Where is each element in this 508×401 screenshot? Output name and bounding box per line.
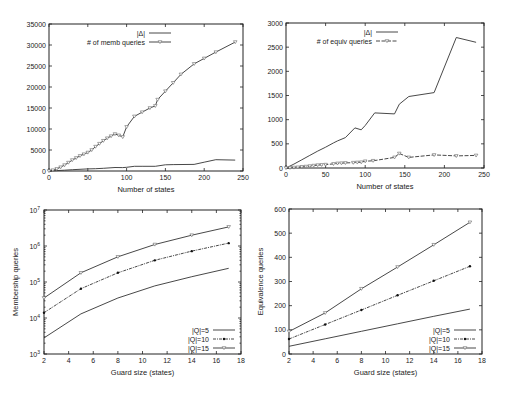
x-tick-label: 4 (67, 357, 71, 364)
dot-marker-icon (43, 312, 45, 314)
triangle-marker-icon (42, 297, 46, 300)
y-axis-label: Membership queries (11, 248, 20, 316)
dot-marker-icon (117, 272, 119, 274)
x-tick-label: 12 (163, 357, 171, 364)
x-tick-label: 4 (311, 357, 315, 364)
y-tick-label: 1500 (267, 92, 283, 99)
x-tick-label: 10 (382, 357, 390, 364)
plot-frame (289, 209, 482, 354)
dot-marker-icon (464, 338, 466, 340)
x-axis-label: Guard size (states) (354, 368, 418, 377)
triangle-marker-icon (125, 126, 129, 129)
x-tick-label: 14 (430, 357, 438, 364)
x-tick-label: 0 (47, 174, 51, 181)
dot-marker-icon (80, 288, 82, 290)
dot-marker-icon (433, 280, 435, 282)
legend-label: |Δ| (137, 30, 145, 38)
legend-label: |Q|=5 (192, 327, 209, 335)
series-1 (47, 41, 237, 173)
series-line (49, 160, 235, 171)
triangle-marker-icon (287, 330, 291, 333)
legend-label: |Q|=10 (429, 336, 450, 344)
series-line (44, 243, 229, 313)
dot-marker-icon (396, 294, 398, 296)
y-tick-label: 2500 (267, 44, 283, 51)
x-tick-label: 100 (121, 174, 133, 181)
y-tick-label: 35000 (27, 21, 47, 28)
x-tick-label: 0 (284, 171, 288, 178)
y-tick-label: 2000 (267, 68, 283, 75)
dot-marker-icon (360, 309, 362, 311)
x-tick-label: 8 (359, 357, 363, 364)
y-tick-label: 20000 (27, 84, 47, 91)
x-tick-label: 10 (139, 357, 147, 364)
x-tick-label: 14 (188, 357, 196, 364)
x-tick-label: 18 (237, 357, 245, 364)
legend-label: |Q|=15 (429, 345, 450, 353)
x-tick-label: 250 (237, 174, 249, 181)
triangle-marker-icon (474, 154, 478, 157)
x-tick-label: 200 (198, 174, 210, 181)
series-line (289, 222, 470, 331)
y-tick-label: 0 (279, 165, 283, 172)
series-0 (49, 160, 235, 171)
x-tick-label: 16 (454, 357, 462, 364)
y-tick-label: 10000 (27, 126, 47, 133)
y-tick-label: 103 (29, 349, 40, 358)
triangle-marker-icon (121, 136, 125, 139)
y-tick-label: 105 (29, 277, 40, 286)
x-tick-label: 250 (478, 171, 490, 178)
x-tick-label: 16 (212, 357, 220, 364)
legend-label: |Q|=5 (433, 327, 450, 335)
x-tick-label: 6 (335, 357, 339, 364)
legend-label: |Δ| (364, 29, 372, 37)
dot-marker-icon (469, 265, 471, 267)
x-tick-label: 8 (116, 357, 120, 364)
series-line (49, 42, 235, 171)
y-tick-label: 3000 (267, 20, 283, 27)
y-tick-label: 200 (274, 302, 286, 309)
y-tick-label: 30000 (27, 42, 47, 49)
x-tick-label: 50 (322, 171, 330, 178)
x-axis-label: Number of states (117, 185, 174, 194)
x-tick-label: 2 (42, 357, 46, 364)
plot-frame (44, 210, 241, 354)
chart-equivalence-vs-states: 050100150200250050010001500200025003000N… (267, 20, 490, 192)
y-tick-label: 5000 (30, 147, 46, 154)
dot-marker-icon (191, 250, 193, 252)
legend-label: |Q|=10 (188, 336, 209, 344)
y-tick-label: 500 (271, 140, 283, 147)
y-tick-label: 106 (29, 241, 40, 250)
dot-marker-icon (324, 323, 326, 325)
x-tick-label: 150 (160, 174, 172, 181)
series-line (286, 38, 476, 169)
y-tick-label: 0 (42, 168, 46, 175)
chart-membership-vs-guard-size: 24681012141618103104105106107Guard size … (11, 205, 245, 378)
y-axis-label: Equivalence queries (256, 247, 265, 315)
y-tick-label: 500 (274, 230, 286, 237)
chart-membership-vs-states: 0501001502002500500010000150002000025000… (27, 21, 249, 195)
x-tick-label: 12 (406, 357, 414, 364)
figure-canvas: 0501001502002500500010000150002000025000… (0, 0, 508, 401)
y-tick-label: 15000 (27, 105, 47, 112)
plot-frame (286, 23, 484, 168)
y-tick-label: 104 (29, 313, 40, 322)
y-tick-label: 0 (282, 351, 286, 358)
dot-marker-icon (223, 338, 225, 340)
series-0 (286, 38, 476, 169)
x-tick-label: 150 (399, 171, 411, 178)
legend: |Q|=5|Q|=10|Q|=15 (429, 327, 476, 353)
legend: |Q|=5|Q|=10|Q|=15 (188, 327, 235, 353)
x-tick-label: 6 (91, 357, 95, 364)
x-tick-label: 18 (478, 357, 486, 364)
y-tick-label: 600 (274, 206, 286, 213)
legend: |Δ|# of memb queries (87, 30, 171, 47)
series-line (44, 227, 229, 298)
dot-marker-icon (288, 338, 290, 340)
x-axis-label: Guard size (states) (111, 368, 175, 377)
y-tick-label: 107 (29, 205, 40, 214)
triangle-marker-icon (156, 98, 160, 101)
series-2 (42, 226, 230, 300)
chart-equivalence-vs-guard-size: 246810121416180100200300400500600Guard s… (256, 206, 486, 378)
x-tick-label: 50 (84, 174, 92, 181)
